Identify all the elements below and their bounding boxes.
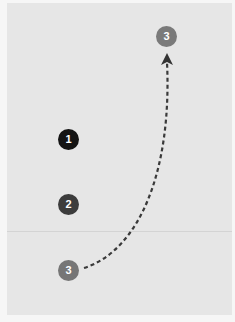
token-label: 2 bbox=[65, 198, 71, 210]
move-arrow bbox=[0, 0, 235, 322]
token-3-start: 3 bbox=[58, 260, 79, 281]
token-2: 2 bbox=[58, 194, 79, 215]
dashed-path bbox=[84, 62, 168, 268]
token-3-end: 3 bbox=[156, 26, 177, 47]
token-1: 1 bbox=[58, 129, 79, 150]
token-label: 3 bbox=[65, 264, 71, 276]
token-label: 1 bbox=[65, 133, 71, 145]
token-label: 3 bbox=[163, 30, 169, 42]
arrowhead-icon bbox=[161, 53, 173, 65]
